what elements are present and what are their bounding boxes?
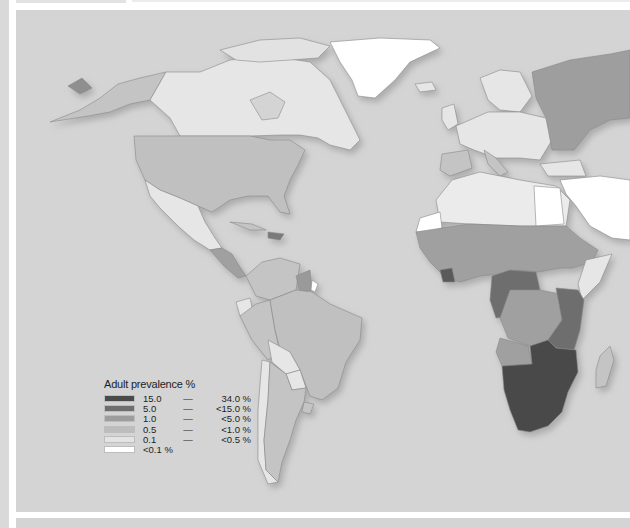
legend-swatch [104, 436, 135, 443]
map-panel: Adult prevalence % 15.0 — 34.0 % 5.0 — <… [16, 10, 630, 512]
region-uruguay [302, 402, 314, 414]
region-alaska [50, 72, 166, 122]
region-iberia [440, 150, 472, 176]
region-alaska-west [68, 78, 92, 94]
region-scandinavia [480, 70, 532, 112]
top-tab [16, 0, 126, 3]
legend-row: 5.0 — <15.0 % [104, 403, 284, 413]
legend-swatch [104, 405, 135, 412]
region-madagascar [596, 346, 614, 388]
legend-title: Adult prevalence % [104, 378, 284, 390]
region-turkey [540, 160, 586, 176]
legend-row: 1.0 — <5.0 % [104, 414, 284, 424]
region-iceland [415, 82, 436, 92]
left-edge-strip [0, 0, 9, 528]
region-hispaniola [268, 232, 284, 240]
legend-row: 15.0 — 34.0 % [104, 393, 284, 403]
region-egypt [534, 186, 564, 226]
region-cote-divoire [440, 268, 455, 282]
region-central-america [210, 248, 246, 278]
region-cuba [230, 222, 266, 230]
legend: Adult prevalence % 15.0 — 34.0 % 5.0 — <… [104, 378, 284, 455]
bottom-panel [16, 518, 630, 528]
region-french-guiana [311, 280, 318, 292]
region-western-europe [456, 112, 552, 160]
legend-row: 0.1 — <0.5 % [104, 434, 284, 444]
region-arctic-islands [220, 38, 330, 62]
region-uk [442, 104, 458, 130]
legend-row: 0.5 — <1.0 % [104, 424, 284, 434]
legend-swatch [104, 395, 135, 402]
legend-high: <0.5 % [201, 434, 251, 445]
legend-low: <0.1 % [143, 444, 203, 455]
legend-swatch [104, 446, 135, 453]
top-divider [132, 0, 630, 2]
legend-swatch [104, 415, 135, 422]
legend-swatch [104, 426, 135, 433]
legend-row: <0.1 % [104, 444, 284, 454]
